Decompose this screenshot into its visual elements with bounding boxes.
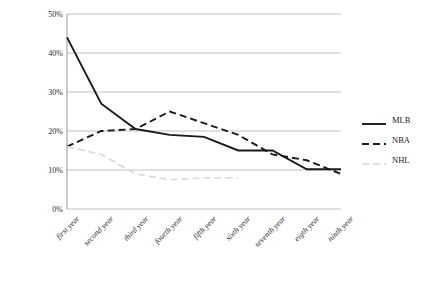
y-tick-label: 0% bbox=[23, 205, 63, 214]
x-tick-label: fifth year bbox=[191, 214, 218, 241]
x-tick-label: second year bbox=[82, 214, 116, 248]
legend-item-mlb[interactable]: MLB bbox=[362, 110, 434, 130]
x-tick-label: third year bbox=[121, 214, 150, 243]
legend-swatch-icon bbox=[362, 115, 386, 125]
chart-legend: MLBNBANHL bbox=[362, 110, 434, 170]
legend-label: MLB bbox=[392, 115, 410, 125]
legend-label: NBA bbox=[392, 135, 410, 145]
legend-item-nba[interactable]: NBA bbox=[362, 130, 434, 150]
x-tick-label: sixth year bbox=[224, 214, 253, 243]
legend-label: NHL bbox=[392, 155, 409, 165]
y-tick-label: 50% bbox=[23, 10, 63, 19]
legend-swatch-icon bbox=[362, 155, 386, 165]
x-tick-label: ninth year bbox=[326, 214, 355, 243]
y-tick-label: 20% bbox=[23, 127, 63, 136]
y-tick-label: 10% bbox=[23, 166, 63, 175]
series-line-nhl bbox=[67, 147, 238, 180]
plot-svg bbox=[67, 14, 341, 209]
x-tick-label: eigth year bbox=[292, 214, 321, 243]
x-tick-label: first year bbox=[54, 214, 81, 241]
gridlines bbox=[67, 14, 341, 209]
line-chart: Change in attendance 0%10%20%30%40%50% f… bbox=[0, 0, 434, 283]
legend-item-nhl[interactable]: NHL bbox=[362, 150, 434, 170]
plot-area: 0%10%20%30%40%50% first yearsecond yeart… bbox=[67, 14, 341, 209]
y-tick-label: 40% bbox=[23, 49, 63, 58]
series-lines bbox=[67, 37, 341, 179]
y-tick-label: 30% bbox=[23, 88, 63, 97]
series-line-mlb bbox=[67, 37, 341, 169]
legend-swatch-icon bbox=[362, 135, 386, 145]
x-tick-label: seventh year bbox=[252, 214, 287, 249]
x-tick-label: fourth year bbox=[152, 214, 184, 246]
